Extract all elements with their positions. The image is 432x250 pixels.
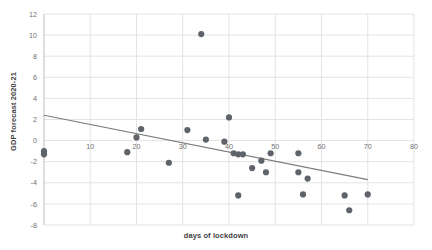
data-point xyxy=(300,191,306,197)
data-point xyxy=(133,134,139,140)
y-tick-label: -4 xyxy=(31,178,37,187)
data-point xyxy=(268,150,274,156)
data-point xyxy=(263,169,269,175)
data-point xyxy=(203,136,209,142)
y-tick-label: 4 xyxy=(33,94,37,103)
data-point xyxy=(249,165,255,171)
x-tick-label: 80 xyxy=(410,142,418,151)
data-point xyxy=(346,207,352,213)
data-point xyxy=(295,169,301,175)
data-point xyxy=(342,192,348,198)
x-tick-label: 20 xyxy=(133,142,141,151)
plot-area: -8-6-4-2024681012 1020304050607080 xyxy=(0,0,432,250)
data-point xyxy=(295,150,301,156)
y-tick-label: 2 xyxy=(33,115,37,124)
x-tick-label: 70 xyxy=(364,142,372,151)
data-point xyxy=(41,151,47,157)
y-tick-label: -8 xyxy=(31,221,37,230)
x-tick-label: 60 xyxy=(318,142,326,151)
x-tick-label: 10 xyxy=(86,142,94,151)
data-point xyxy=(305,175,311,181)
data-point xyxy=(235,192,241,198)
data-point xyxy=(221,139,227,145)
x-tick-label: 50 xyxy=(271,142,279,151)
y-tick-label: 10 xyxy=(29,31,37,40)
y-tick-labels: -8-6-4-2024681012 xyxy=(29,10,37,230)
data-point xyxy=(166,160,172,166)
y-tick-label: 8 xyxy=(33,52,37,61)
y-axis-title: GDP forecast 2020-21 xyxy=(9,62,18,162)
data-point xyxy=(226,114,232,120)
y-tick-label: 12 xyxy=(29,10,37,19)
data-point xyxy=(240,151,246,157)
scatter-chart: -8-6-4-2024681012 1020304050607080 GDP f… xyxy=(0,0,432,250)
data-point xyxy=(138,126,144,132)
y-tick-label: 0 xyxy=(33,136,37,145)
data-point xyxy=(258,158,264,164)
y-tick-label: -6 xyxy=(31,200,37,209)
y-tick-label: 6 xyxy=(33,73,37,82)
x-axis-title: days of lockdown xyxy=(0,231,432,240)
data-point xyxy=(184,127,190,133)
data-point xyxy=(365,191,371,197)
data-point xyxy=(124,149,130,155)
x-tick-labels: 1020304050607080 xyxy=(86,142,418,151)
data-point xyxy=(198,31,204,37)
y-tick-label: -2 xyxy=(31,157,37,166)
